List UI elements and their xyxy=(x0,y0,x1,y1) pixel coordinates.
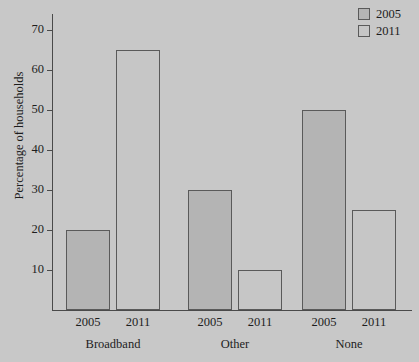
legend-swatch-icon xyxy=(358,8,370,20)
legend-item-2011: 2011 xyxy=(358,25,401,38)
bar-none-2005 xyxy=(302,110,346,310)
bar-none-2011 xyxy=(352,210,396,310)
y-tick-label: 30 xyxy=(0,183,44,196)
bar-broadband-2011 xyxy=(116,50,160,310)
bar-other-2011 xyxy=(238,270,282,310)
x-sublabel: 2011 xyxy=(116,316,160,329)
bar-other-2005 xyxy=(188,190,232,310)
x-group-label: Broadband xyxy=(66,338,160,351)
legend-item-2005: 2005 xyxy=(358,8,401,21)
y-tick-label: 10 xyxy=(0,263,44,276)
x-sublabel: 2005 xyxy=(66,316,110,329)
y-tick-label: 20 xyxy=(0,223,44,236)
x-group-label: Other xyxy=(188,338,282,351)
x-sublabel: 2005 xyxy=(302,316,346,329)
legend-label: 2005 xyxy=(376,8,401,21)
y-axis-line xyxy=(52,14,53,311)
legend: 20052011 xyxy=(358,8,401,37)
x-group-label: None xyxy=(302,338,396,351)
y-tick-label: 60 xyxy=(0,63,44,76)
bar-broadband-2005 xyxy=(66,230,110,310)
x-sublabel: 2011 xyxy=(238,316,282,329)
y-tick-label: 50 xyxy=(0,103,44,116)
x-sublabel: 2005 xyxy=(188,316,232,329)
bar-chart: Percentage of households 70605040302010 … xyxy=(0,0,419,362)
x-axis-line xyxy=(52,310,412,311)
y-tick-label: 40 xyxy=(0,143,44,156)
y-tick-label: 70 xyxy=(0,23,44,36)
legend-label: 2011 xyxy=(376,25,401,38)
legend-swatch-icon xyxy=(358,25,370,37)
x-sublabel: 2011 xyxy=(352,316,396,329)
